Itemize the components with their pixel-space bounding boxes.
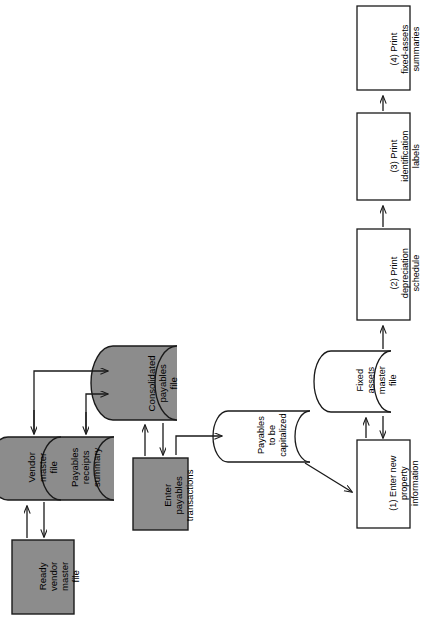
- shape-fixed-assets-master-file: [314, 351, 391, 412]
- shape-layer: [0, 6, 410, 614]
- shape-step-2: [357, 229, 410, 320]
- flowchart-svg: [0, 0, 425, 626]
- shape-consolidated-payables-file: [91, 346, 177, 420]
- shape-step-4: [357, 6, 410, 90]
- shape-enter-payables-transactions: [133, 458, 188, 530]
- shape-ready-vendor-master-file: [12, 540, 74, 614]
- edge-capitalized-to-step1: [305, 463, 352, 492]
- shape-payables-receipts-summary: [61, 437, 114, 500]
- flowchart-canvas: Ready vendor master file Vendor master f…: [0, 0, 425, 626]
- shape-step-1: [357, 440, 410, 528]
- shape-payables-to-be-capitalized: [213, 411, 310, 462]
- shape-step-3: [357, 113, 410, 200]
